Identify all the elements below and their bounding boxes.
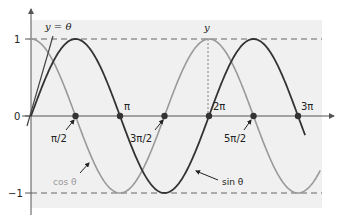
x-tick-label-pi: π <box>124 101 130 112</box>
y-tick-label-minus1: −1 <box>8 188 23 199</box>
marked-point <box>161 113 167 119</box>
x-tick-label-3pi-half: 3π/2 <box>130 133 152 144</box>
x-tick-label-2pi: 2π <box>213 101 225 112</box>
marked-point <box>206 113 212 119</box>
y-tick-label-0: 0 <box>14 111 20 122</box>
x-tick-label-3pi: 3π <box>301 101 313 112</box>
y-tick-label-1: 1 <box>14 34 20 45</box>
label-sin-theta: sin θ <box>222 177 244 187</box>
label-y-equals-theta: y = θ <box>44 21 71 32</box>
x-tick-label-5pi-half: 5π/2 <box>224 133 246 144</box>
marked-point <box>295 113 301 119</box>
x-tick-label-pi-half: π/2 <box>51 133 67 144</box>
marked-point <box>72 113 78 119</box>
trig-chart: 1 0 −1 π/2 π 3π/2 2π 5π/2 3π y = θ y cos… <box>0 0 341 223</box>
marked-point <box>117 113 123 119</box>
label-y-axis: y <box>203 22 210 33</box>
marked-point <box>250 113 256 119</box>
label-cos-theta: cos θ <box>53 177 77 187</box>
